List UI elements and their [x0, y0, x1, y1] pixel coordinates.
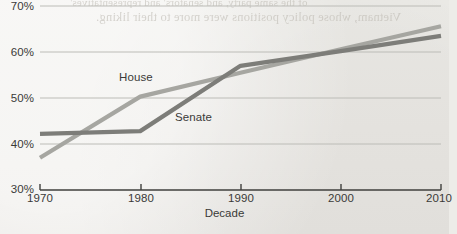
- y-tick-label-70: 70%: [0, 0, 34, 12]
- x-tick-label-1970: 1970: [16, 192, 64, 204]
- series-label-house: House: [119, 71, 153, 83]
- x-axis: [40, 184, 441, 190]
- x-tick-label-1990: 1990: [217, 192, 265, 204]
- y-tick-label-50: 50%: [0, 92, 34, 104]
- y-tick-label-40: 40%: [0, 138, 34, 150]
- y-tick-label-60: 60%: [0, 46, 34, 58]
- x-axis-title: Decade: [0, 207, 449, 219]
- series-label-senate: Senate: [175, 111, 212, 123]
- x-tick-label-1980: 1980: [117, 192, 165, 204]
- x-tick-label-2000: 2000: [317, 192, 365, 204]
- x-tick-label-2010: 2010: [415, 192, 457, 204]
